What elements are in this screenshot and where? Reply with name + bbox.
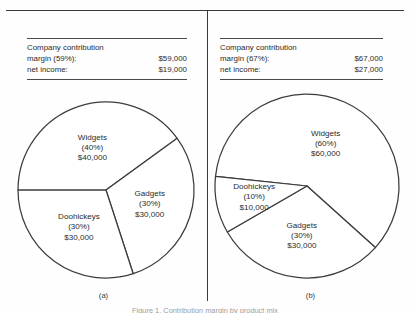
summary-row-label: margin (59%): <box>27 53 77 64</box>
figure-caption: Figure 1. Contribution margin by product… <box>0 306 410 313</box>
summary-heading: Company contribution <box>27 42 104 53</box>
summary-row-value: $67,000 <box>354 53 383 64</box>
summary-table-a: Company contribution margin (59%): $59,0… <box>27 38 187 80</box>
pie-slice-name: Gadgets <box>134 189 165 198</box>
summary-row-value: $19,000 <box>158 64 187 75</box>
summary-rule-top <box>220 38 383 39</box>
pie-slice-percent: (40%) <box>82 143 104 152</box>
pie-slice-value: $40,000 <box>78 153 108 162</box>
summary-row-label: net income: <box>27 64 68 75</box>
panel-a: Company contribution margin (59%): $59,0… <box>0 10 207 313</box>
figure-container: Company contribution margin (59%): $59,0… <box>0 0 410 313</box>
summary-rule-top <box>27 38 187 39</box>
pie-slice-name: Widgets <box>311 129 340 138</box>
summary-heading-row: Company contribution <box>220 42 383 53</box>
pie-slice-percent: (30%) <box>68 222 90 231</box>
pie-svg-b: Widgets(60%)$60,000Gadgets(30%)$30,000Do… <box>209 92 405 288</box>
summary-row-net-income: net income: $19,000 <box>27 64 187 75</box>
pie-slice-percent: (60%) <box>315 139 337 148</box>
summary-rule-bottom <box>220 79 383 80</box>
pie-slice-value: $30,000 <box>287 241 317 250</box>
pie-slice-value: $60,000 <box>311 149 341 158</box>
summary-heading: Company contribution <box>220 42 297 53</box>
pie-slice-name: Gadgets <box>286 221 317 230</box>
summary-rule-bottom <box>27 79 187 80</box>
pie-chart-a: Widgets(40%)$40,000Gadgets(30%)$30,000Do… <box>8 92 200 288</box>
pie-slice-percent: (30%) <box>291 231 313 240</box>
pie-slice-name: Widgets <box>78 133 107 142</box>
summary-row-label: net income: <box>220 64 261 75</box>
summary-heading-row: Company contribution <box>27 42 187 53</box>
pie-slice-value: $30,000 <box>64 233 94 242</box>
summary-row-value: $27,000 <box>354 64 383 75</box>
pie-svg-a: Widgets(40%)$40,000Gadgets(30%)$30,000Do… <box>8 92 200 288</box>
pie-chart-b: Widgets(60%)$60,000Gadgets(30%)$30,000Do… <box>209 92 405 288</box>
panel-caption-a: (a) <box>0 291 213 300</box>
summary-table-b: Company contribution margin (67%): $67,0… <box>220 38 383 80</box>
pie-slice-percent: (10%) <box>243 192 265 201</box>
pie-slices-a <box>18 102 194 278</box>
pie-slice-value: $10,000 <box>240 203 270 212</box>
pie-slice-name: Doohickeys <box>58 212 100 221</box>
pie-slice-name: Doohickeys <box>233 182 275 191</box>
pie-slice-value: $30,000 <box>135 210 165 219</box>
panel-b: Company contribution margin (67%): $67,0… <box>207 10 410 313</box>
summary-row-margin: margin (59%): $59,000 <box>27 53 187 64</box>
summary-row-margin: margin (67%): $67,000 <box>220 53 383 64</box>
summary-row-value: $59,000 <box>158 53 187 64</box>
panel-caption-b: (b) <box>207 291 410 300</box>
summary-row-label: margin (67%): <box>220 53 270 64</box>
pie-slice-percent: (30%) <box>139 199 161 208</box>
summary-row-net-income: net income: $27,000 <box>220 64 383 75</box>
